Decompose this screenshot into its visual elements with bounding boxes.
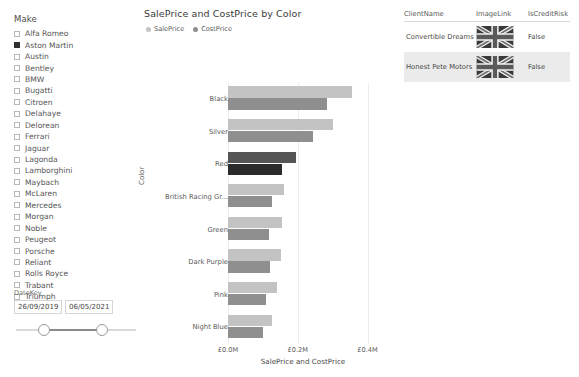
bar-group	[228, 116, 378, 149]
legend-item-saleprice[interactable]: SalePrice	[146, 25, 184, 33]
table-body: Convertible Dreams FalseHonest Pete Moto…	[404, 22, 570, 82]
table-row[interactable]: Honest Pete Motors False	[404, 52, 570, 82]
slicer-item-label: Austin	[25, 51, 49, 62]
checkbox-icon[interactable]	[14, 237, 20, 243]
bar-costprice[interactable]	[228, 164, 282, 175]
checkbox-icon[interactable]	[14, 122, 20, 128]
slider-handle-end[interactable]	[96, 324, 108, 336]
checkbox-icon[interactable]	[14, 271, 20, 277]
checkbox-icon[interactable]	[14, 191, 20, 197]
checkbox-icon[interactable]	[14, 259, 20, 265]
bar-costprice[interactable]	[228, 294, 266, 305]
slider-handle-start[interactable]	[38, 324, 50, 336]
checkbox-icon[interactable]	[14, 157, 20, 163]
bar-costprice[interactable]	[228, 98, 327, 109]
bar-costprice[interactable]	[228, 131, 313, 142]
checkbox-icon[interactable]	[14, 225, 20, 231]
slicer-item-bmw[interactable]: BMW	[14, 74, 132, 85]
slicer-item-rolls-royce[interactable]: Rolls Royce	[14, 268, 132, 279]
slicer-item-delorean[interactable]: Delorean	[14, 120, 132, 131]
slicer-item-noble[interactable]: Noble	[14, 222, 132, 233]
date-range-inputs: 26/09/2019 06/05/2021	[14, 300, 138, 314]
slicer-item-maybach[interactable]: Maybach	[14, 177, 132, 188]
legend-swatch-icon	[146, 27, 151, 32]
saleprice-costprice-bar-chart: SalePrice and CostPrice by Color SalePri…	[140, 8, 392, 370]
bar-group	[228, 311, 378, 344]
date-end-input[interactable]: 06/05/2021	[65, 300, 113, 314]
bar-saleprice[interactable]	[228, 152, 296, 163]
slicer-item-bentley[interactable]: Bentley	[14, 62, 132, 73]
bar-saleprice[interactable]	[228, 315, 272, 326]
category-label[interactable]: Silver	[148, 116, 228, 149]
bar-saleprice[interactable]	[228, 184, 284, 195]
slicer-item-porsche[interactable]: Porsche	[14, 245, 132, 256]
checkbox-icon[interactable]	[14, 134, 20, 140]
category-label[interactable]: Night Blue	[148, 311, 228, 344]
x-axis-title: SalePrice and CostPrice	[228, 357, 378, 366]
slicer-item-mercedes[interactable]: Mercedes	[14, 200, 132, 211]
checkbox-icon[interactable]	[14, 214, 20, 220]
x-axis-tick-label: £0.0M	[218, 346, 238, 354]
category-label[interactable]: Green	[148, 213, 228, 246]
column-header-iscreditrisk[interactable]: IsCreditRisk	[528, 10, 570, 18]
column-header-imagelink[interactable]: ImageLink	[476, 10, 528, 18]
date-range-slider[interactable]	[14, 323, 138, 337]
slicer-item-delahaye[interactable]: Delahaye	[14, 108, 132, 119]
slicer-item-label: Ferrari	[25, 131, 50, 142]
bar-saleprice[interactable]	[228, 217, 282, 228]
checkbox-icon[interactable]	[14, 65, 20, 71]
slicer-item-lagonda[interactable]: Lagonda	[14, 154, 132, 165]
bar-costprice[interactable]	[228, 327, 263, 338]
checkbox-icon[interactable]	[14, 111, 20, 117]
date-start-input[interactable]: 26/09/2019	[14, 300, 62, 314]
slicer-item-label: Lamborghini	[25, 165, 72, 176]
slicer-item-citroen[interactable]: Citroen	[14, 97, 132, 108]
checkbox-icon[interactable]	[14, 76, 20, 82]
slicer-item-mclaren[interactable]: McLaren	[14, 188, 132, 199]
legend-label: CostPrice	[201, 25, 232, 33]
slicer-item-alfa-romeo[interactable]: Alfa Romeo	[14, 28, 132, 39]
slicer-item-austin[interactable]: Austin	[14, 51, 132, 62]
category-label[interactable]: British Racing Gr...	[148, 181, 228, 214]
table-row[interactable]: Convertible Dreams False	[404, 22, 570, 52]
bar-saleprice[interactable]	[228, 119, 333, 130]
bar-saleprice[interactable]	[228, 282, 277, 293]
slicer-item-label: Bentley	[25, 63, 54, 74]
category-label[interactable]: Red	[148, 148, 228, 181]
checkbox-icon[interactable]	[14, 282, 20, 288]
cell-imagelink	[476, 56, 528, 78]
category-label[interactable]: Black	[148, 83, 228, 116]
checkbox-icon[interactable]	[14, 202, 20, 208]
slicer-item-label: Delorean	[25, 120, 59, 131]
slicer-item-reliant[interactable]: Reliant	[14, 257, 132, 268]
category-label[interactable]: Pink	[148, 279, 228, 312]
checkbox-icon[interactable]	[14, 54, 20, 60]
x-axis-tick-label: £0.4M	[357, 346, 377, 354]
legend-item-costprice[interactable]: CostPrice	[193, 25, 232, 33]
checkbox-icon[interactable]	[14, 168, 20, 174]
bar-saleprice[interactable]	[228, 249, 281, 260]
slicer-item-morgan[interactable]: Morgan	[14, 211, 132, 222]
slicer-item-ferrari[interactable]: Ferrari	[14, 131, 132, 142]
slicer-item-aston-martin[interactable]: Aston Martin	[14, 39, 132, 50]
cell-clientname: Honest Pete Motors	[404, 63, 476, 71]
checkbox-icon[interactable]	[14, 31, 20, 37]
checkbox-icon[interactable]	[14, 145, 20, 151]
slicer-item-peugeot[interactable]: Peugeot	[14, 234, 132, 245]
bar-saleprice[interactable]	[228, 86, 352, 97]
bar-costprice[interactable]	[228, 196, 272, 207]
bar-costprice[interactable]	[228, 261, 270, 272]
slicer-item-label: Alfa Romeo	[25, 28, 68, 39]
checkbox-icon[interactable]	[14, 179, 20, 185]
slicer-item-bugatti[interactable]: Bugatti	[14, 85, 132, 96]
checkbox-icon[interactable]	[14, 99, 20, 105]
column-header-clientname[interactable]: ClientName	[404, 10, 476, 18]
client-table: ClientName ImageLink IsCreditRisk Conver…	[404, 10, 570, 82]
checkbox-icon[interactable]	[14, 42, 20, 48]
slicer-item-lamborghini[interactable]: Lamborghini	[14, 165, 132, 176]
bar-costprice[interactable]	[228, 229, 269, 240]
checkbox-icon[interactable]	[14, 88, 20, 94]
category-label[interactable]: Dark Purple	[148, 246, 228, 279]
slicer-item-jaguar[interactable]: Jaguar	[14, 142, 132, 153]
checkbox-icon[interactable]	[14, 248, 20, 254]
